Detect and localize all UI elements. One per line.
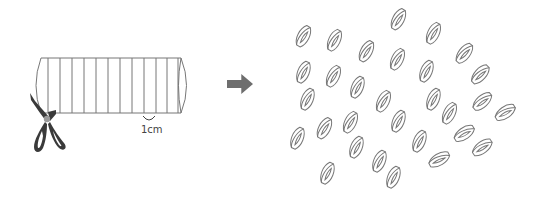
scissors-handle-left — [34, 122, 47, 152]
cardboard-tube — [36, 58, 187, 113]
ring-slice — [387, 47, 408, 72]
ring-slice — [348, 75, 368, 100]
ring-slice — [356, 39, 377, 64]
tube-open-end — [179, 58, 187, 113]
ring-slice — [294, 60, 314, 85]
ring-slice — [423, 21, 444, 46]
ring-slice — [370, 149, 390, 174]
ring-slice — [314, 116, 335, 141]
measurement-bracket — [143, 116, 155, 120]
ring-slice — [288, 126, 308, 151]
ring-slice — [347, 135, 367, 160]
scissors-pivot — [44, 116, 50, 122]
ring-slice — [470, 90, 494, 113]
ring-slice — [453, 41, 476, 65]
ring-slice — [389, 109, 409, 134]
arrow-right-icon — [227, 74, 253, 94]
ring-slice — [388, 7, 409, 32]
ring-slice — [373, 89, 394, 114]
diagram-svg — [0, 0, 545, 201]
ring-slice — [452, 123, 477, 144]
ring-slice — [324, 28, 345, 53]
ring-slice — [424, 87, 444, 112]
ring-slice — [427, 149, 452, 170]
ring-slice — [323, 64, 344, 89]
ring-slice — [293, 24, 314, 49]
ring-slice — [468, 62, 492, 86]
ring-slice — [384, 165, 404, 190]
cut-rings-group — [288, 7, 518, 190]
measurement-label: 1cm — [141, 124, 163, 135]
ring-slice — [318, 161, 338, 186]
ring-slice — [470, 136, 495, 158]
scissors-handle-right — [48, 122, 66, 150]
ring-slice — [340, 110, 361, 135]
ring-slice — [298, 87, 318, 112]
cut-lines — [48, 58, 178, 113]
diagram-canvas: 1cm — [0, 0, 545, 201]
ring-slice — [439, 101, 460, 126]
ring-slice — [410, 129, 430, 154]
ring-slice — [417, 59, 437, 84]
ring-slice — [493, 102, 518, 123]
